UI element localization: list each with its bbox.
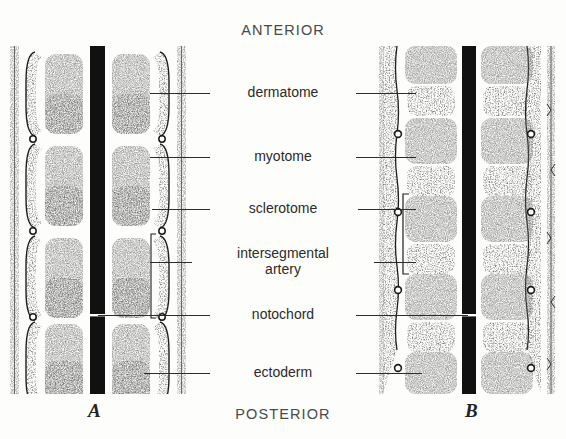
notochord-tick-a <box>90 314 105 316</box>
panel-a-drawing <box>8 46 188 394</box>
panel-b-drawing <box>379 46 559 394</box>
notochord-tick-b <box>462 314 476 316</box>
posterior-orientation-label: POSTERIOR <box>0 406 566 422</box>
label-ectoderm: ectoderm <box>249 365 317 381</box>
label-sclerotome: sclerotome <box>244 201 322 217</box>
sclerotome-bracket-a <box>151 234 156 318</box>
figure-canvas: ANTERIOR <box>0 0 566 439</box>
label-notochord: notochord <box>247 307 319 323</box>
notochord-b <box>462 46 476 394</box>
label-intersegmental-artery: intersegmental artery <box>232 246 334 277</box>
label-myotome: myotome <box>249 149 317 165</box>
anterior-orientation-label: ANTERIOR <box>0 22 566 38</box>
notochord-a <box>90 46 105 394</box>
label-dermatome: dermatome <box>243 85 324 101</box>
